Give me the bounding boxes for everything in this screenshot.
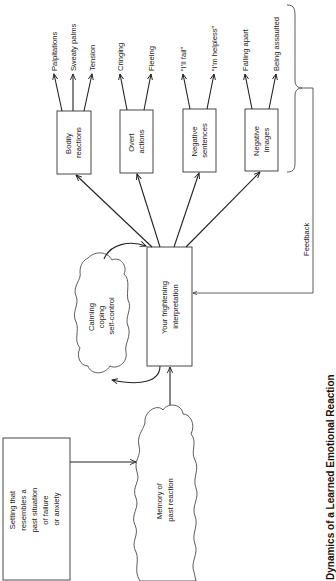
arrow-to-sentences [174,173,199,247]
output-fleeing: Fleeing [147,46,156,71]
arrow-tension [84,74,92,111]
arrow-to-images [186,172,260,247]
arrow-im-helpless [207,74,214,109]
setting-line-4: of failure [41,495,50,524]
svg-text:Setting that resembles a: Setting that resembles a past situation … [8,486,61,533]
images-line-1: Negative [252,126,261,156]
interpretation-node: Your frightening interpretation [147,247,192,366]
sentences-node: Negative sentences [183,109,216,172]
arrow-interpretation-to-calming [112,366,160,383]
sentences-line-2: sentences [200,123,209,158]
bodily-node: Bodily reactions [57,111,91,174]
arrow-palpitations [54,74,62,111]
interpretation-line-1: Your frightening [160,281,169,334]
memory-line-1: Memory of [155,482,164,519]
output-tension: Tension [88,45,97,71]
setting-line-3: past situation [30,488,39,533]
interpretation-line-2: interpretation [171,284,180,328]
arrow-cringing [120,74,127,110]
calming-line-1: Calming [87,303,96,331]
output-cringing: Cringing [116,43,125,71]
arrow-being-assaulted [269,74,276,109]
diagram-title: Dynamics of a Learned Emotional Reaction [325,374,336,580]
bodily-line-1: Bodily [64,133,73,154]
memory-node: Memory of past reaction [134,405,197,581]
arrow-ill-fail [183,74,190,109]
outputs-brace [287,5,302,172]
arrow-fleeing [144,74,151,110]
svg-text:Bodily reactions: Bodily reactions [64,127,83,158]
learned-emotional-reaction-diagram: Setting that resembles a past situation … [0,0,336,581]
output-palpitations: Palpitations [50,32,59,71]
output-sweaty-palms: Sweaty palms [69,24,78,71]
svg-text:Overt actions: Overt actions [127,129,146,153]
sentences-line-1: Negative [190,127,199,157]
arrow-calming-to-interpretation [104,243,146,259]
overt-node: Overt actions [120,110,153,173]
calming-line-3: self-control [107,297,116,334]
svg-text:Negative images: Negative images [252,124,271,156]
output-im-helpless: “I’m helpless” [210,25,219,71]
overt-line-2: actions [137,129,146,153]
output-ill-fail: “I’ll fail” [179,46,188,71]
calming-line-2: coping [97,306,106,328]
feedback-label: Feedback [302,222,311,256]
setting-line-1: Setting that [8,490,17,529]
images-node: Negative images [245,109,278,171]
overt-line-1: Overt [127,132,136,151]
images-line-2: images [262,128,271,153]
svg-text:Negative sentences: Negative sentences [190,123,209,158]
arrow-falling-apart [245,74,252,109]
setting-node: Setting that resembles a past situation … [3,438,70,580]
calming-node: Calming coping self-control [74,253,129,373]
output-falling-apart: Falling apart [241,28,250,71]
bodily-line-2: reactions [74,127,83,158]
memory-line-2: past reaction [166,478,175,521]
setting-line-5: or anxiety [52,492,61,525]
output-being-assaulted: Being assaulted [272,17,281,71]
setting-line-2: resembles a [19,489,28,531]
